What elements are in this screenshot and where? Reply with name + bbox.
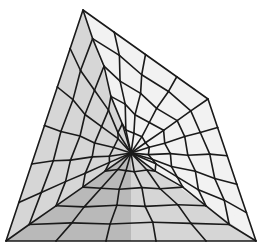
center-vertex — [129, 151, 134, 156]
mesh-edge-radial — [125, 104, 126, 130]
mesh-edge-ring — [56, 206, 84, 207]
mesh-edge-ring — [147, 170, 155, 171]
mesh-edge-radial — [92, 156, 109, 157]
mesh-diagram — [0, 0, 272, 244]
mesh-edge-ring — [118, 170, 126, 171]
mesh-edge-ring — [101, 188, 119, 189]
mesh-edge-radial — [119, 55, 120, 81]
mesh-edge-radial — [188, 154, 210, 155]
mesh-edge-ring — [117, 205, 145, 206]
mesh-edge-ring — [155, 164, 156, 171]
mesh-edge-radial — [141, 75, 142, 94]
mesh-edge-ring — [83, 187, 101, 188]
mesh-edge-radial — [134, 115, 135, 134]
mesh-edge-radial — [148, 154, 170, 155]
mesh-edge-radial — [53, 160, 70, 161]
mesh-edge-ring — [191, 223, 229, 224]
mesh-edge-ring — [142, 188, 160, 189]
mesh-edge-ring — [126, 171, 134, 172]
mesh-edge-ring — [148, 147, 149, 154]
mesh-edge-ring — [72, 223, 110, 224]
mesh-edge-ring — [164, 130, 165, 143]
mesh-edge-ring — [178, 205, 206, 206]
mesh-edge-ring — [170, 154, 171, 167]
mesh-edge-ring — [153, 222, 191, 223]
